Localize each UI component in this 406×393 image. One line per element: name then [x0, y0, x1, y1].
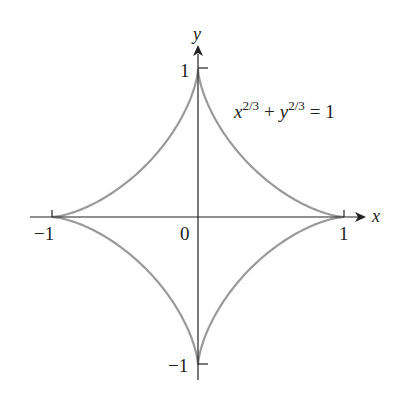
x-axis-label: x [371, 206, 380, 226]
equation-label: x2/3+y2/3= 1 [233, 98, 335, 122]
astroid-diagram: y x 1 −1 −1 1 0 x2/3+y2/3= 1 [0, 0, 406, 393]
x-tick-label-right: 1 [339, 223, 349, 244]
y-tick-label-top: 1 [180, 60, 190, 81]
y-axis-label: y [191, 24, 201, 44]
origin-label: 0 [180, 223, 190, 244]
x-tick-label-left: −1 [34, 223, 54, 244]
y-tick-label-bottom: −1 [168, 355, 188, 376]
